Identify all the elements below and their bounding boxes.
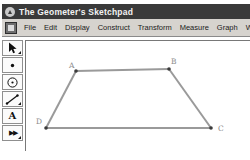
window-title: The Geometer's Sketchpad <box>19 7 133 17</box>
menu-item-transform[interactable]: Transform <box>134 23 176 32</box>
vertex-point-A[interactable] <box>74 69 78 73</box>
straightedge-tool-button[interactable] <box>2 91 23 107</box>
custom-tool-button[interactable]: ▶▶ <box>2 125 23 141</box>
vertex-point-B[interactable] <box>167 67 171 71</box>
vertex-label-C[interactable]: C <box>218 124 224 133</box>
compass-tool-button[interactable] <box>2 74 23 90</box>
vertex-label-A[interactable]: A <box>68 61 75 70</box>
title-bar[interactable]: The Geometer's Sketchpad <box>2 4 250 19</box>
menu-item-graph[interactable]: Graph <box>213 23 242 32</box>
vertex-point-D[interactable] <box>44 126 48 130</box>
point-tool-button[interactable] <box>2 57 23 73</box>
text-tool-icon: A <box>9 111 17 121</box>
compass-circle-icon <box>4 76 21 89</box>
tool-flyout-arrow-icon <box>18 136 21 139</box>
vertex-label-B[interactable]: B <box>171 57 177 66</box>
menu-item-file[interactable]: File <box>20 23 40 32</box>
sketchpad-document-icon[interactable] <box>5 22 17 34</box>
sketch-svg: ABCD <box>26 41 250 151</box>
point-icon <box>4 59 21 72</box>
tool-flyout-arrow-icon <box>18 102 21 105</box>
segment-DA[interactable] <box>46 71 76 128</box>
vertex-label-D[interactable]: D <box>36 117 42 126</box>
tool-palette: A ▶▶ <box>2 40 23 142</box>
vertex-point-C[interactable] <box>209 126 213 130</box>
application-window: The Geometer's Sketchpad File Edit Displ… <box>0 0 250 160</box>
tool-flyout-arrow-icon <box>18 51 21 54</box>
menu-item-display[interactable]: Display <box>61 23 94 32</box>
menu-item-construct[interactable]: Construct <box>94 23 134 32</box>
segment-BC[interactable] <box>169 69 211 128</box>
app-icon[interactable] <box>5 7 15 17</box>
custom-tool-icon: ▶▶ <box>9 130 17 137</box>
selection-arrow-tool-button[interactable] <box>2 40 23 56</box>
menu-item-edit[interactable]: Edit <box>40 23 61 32</box>
sketch-canvas[interactable]: ABCD <box>25 40 250 151</box>
text-tool-button[interactable]: A <box>2 108 23 124</box>
segment-AB[interactable] <box>76 69 169 71</box>
menu-item-measure[interactable]: Measure <box>176 23 213 32</box>
menu-bar: File Edit Display Construct Transform Me… <box>2 19 250 37</box>
menu-item-window[interactable]: W <box>242 23 250 32</box>
